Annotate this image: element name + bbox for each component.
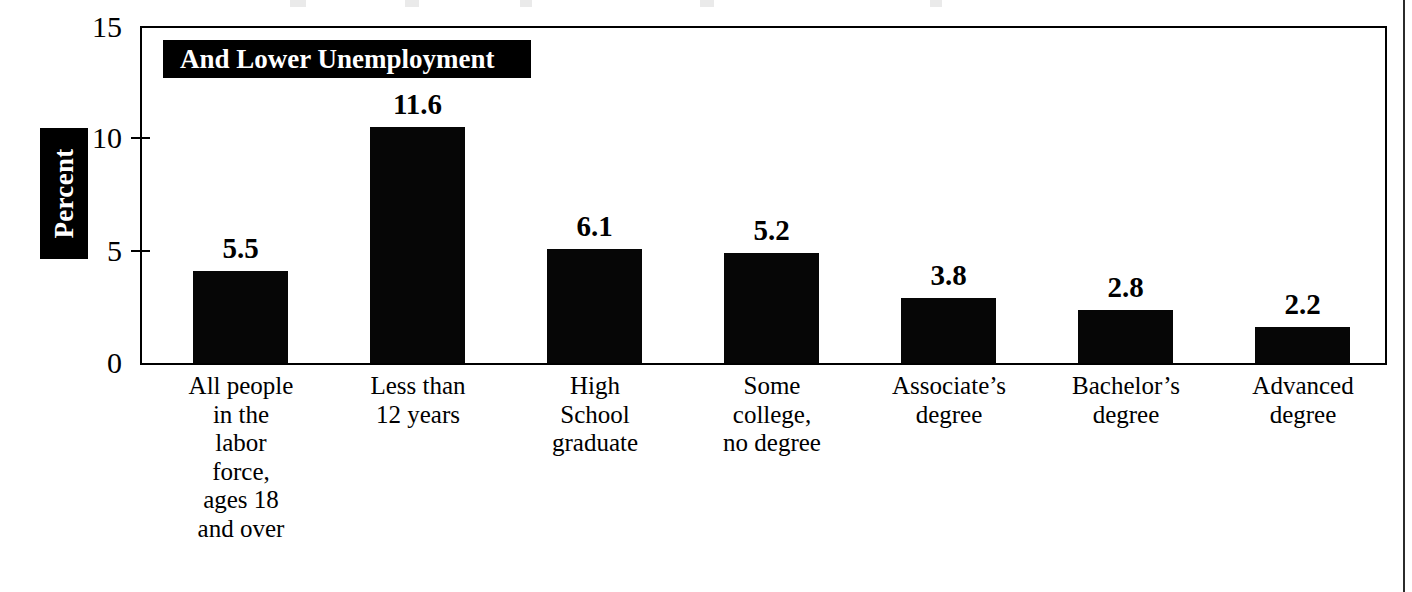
cropped-text-remnant bbox=[930, 0, 942, 7]
x-category-label-1-line-3: labor bbox=[166, 429, 316, 458]
x-category-label-7-line-2: degree bbox=[1228, 401, 1378, 430]
x-category-label-1: All people in the labor force, ages 18 a… bbox=[166, 372, 316, 543]
cropped-text-remnant bbox=[290, 0, 306, 7]
x-category-label-3-line-3: graduate bbox=[520, 429, 670, 458]
bar-value-7: 2.2 bbox=[1255, 290, 1350, 319]
cropped-text-remnant bbox=[405, 0, 419, 7]
bar-value-1: 5.5 bbox=[193, 234, 288, 263]
bar-3 bbox=[547, 249, 642, 363]
bar-7 bbox=[1255, 327, 1350, 363]
x-category-label-4-line-2: college, bbox=[697, 401, 847, 430]
x-category-label-6-line-2: degree bbox=[1051, 401, 1201, 430]
y-tick-mark-5 bbox=[131, 250, 150, 252]
y-axis-title: Percent bbox=[40, 128, 88, 259]
bar-5 bbox=[901, 298, 996, 363]
x-category-label-7: Advanced degree bbox=[1228, 372, 1378, 429]
x-category-label-3-line-1: High bbox=[520, 372, 670, 401]
bar-value-4: 5.2 bbox=[724, 216, 819, 245]
x-category-label-2: Less than 12 years bbox=[343, 372, 493, 429]
bar-6 bbox=[1078, 310, 1173, 363]
x-category-label-4: Some college, no degree bbox=[697, 372, 847, 458]
bar-1 bbox=[193, 271, 288, 363]
x-category-label-2-line-1: Less than bbox=[343, 372, 493, 401]
x-category-label-1-line-4: force, bbox=[166, 458, 316, 487]
y-axis-line bbox=[140, 26, 142, 365]
bar-value-2: 11.6 bbox=[370, 90, 465, 119]
x-category-label-7-line-1: Advanced bbox=[1228, 372, 1378, 401]
bar-2 bbox=[370, 127, 465, 363]
bar-4 bbox=[724, 253, 819, 363]
bar-value-6: 2.8 bbox=[1078, 273, 1173, 302]
y-axis-title-text: Percent bbox=[51, 148, 78, 238]
y-tick-label-15: 15 bbox=[78, 12, 122, 42]
x-category-label-1-line-6: and over bbox=[166, 515, 316, 544]
x-category-label-6: Bachelor’s degree bbox=[1051, 372, 1201, 429]
x-axis-line bbox=[140, 363, 1387, 365]
chart-canvas: 15 10 5 0 Percent And Lower Unemployment… bbox=[0, 0, 1412, 592]
x-category-label-1-line-2: in the bbox=[166, 401, 316, 430]
cropped-text-remnant bbox=[700, 0, 714, 7]
x-category-label-5-line-2: degree bbox=[874, 401, 1024, 430]
x-category-label-5: Associate’s degree bbox=[874, 372, 1024, 429]
plot-frame-right bbox=[1385, 26, 1387, 365]
bar-value-3: 6.1 bbox=[547, 212, 642, 241]
x-category-label-5-line-1: Associate’s bbox=[874, 372, 1024, 401]
x-category-label-6-line-1: Bachelor’s bbox=[1051, 372, 1201, 401]
plot-frame-top bbox=[140, 26, 1387, 28]
page-border-rule bbox=[1403, 0, 1405, 592]
cropped-text-remnant bbox=[520, 0, 532, 7]
y-tick-label-0: 0 bbox=[78, 348, 122, 378]
x-category-label-1-line-1: All people bbox=[166, 372, 316, 401]
x-category-label-3: High School graduate bbox=[520, 372, 670, 458]
x-category-label-3-line-2: School bbox=[520, 401, 670, 430]
chart-title-text: And Lower Unemployment bbox=[163, 46, 495, 73]
chart-title-banner: And Lower Unemployment bbox=[163, 40, 531, 78]
x-category-label-4-line-3: no degree bbox=[697, 429, 847, 458]
bar-value-5: 3.8 bbox=[901, 261, 996, 290]
x-category-label-4-line-1: Some bbox=[697, 372, 847, 401]
y-tick-mark-10 bbox=[131, 137, 150, 139]
x-category-label-1-line-5: ages 18 bbox=[166, 486, 316, 515]
x-category-label-2-line-2: 12 years bbox=[343, 401, 493, 430]
